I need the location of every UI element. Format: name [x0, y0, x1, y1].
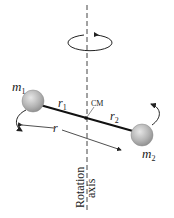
rotation-arrow-icon	[68, 32, 112, 51]
cm-label: CM	[91, 99, 103, 108]
rotation-axis-label: Rotation axis	[73, 167, 98, 208]
mass-1-label: m1	[12, 79, 25, 96]
cm-leader-line	[87, 107, 94, 117]
distance-r-label: r	[53, 121, 58, 135]
mass-1-motion-arrow-icon	[16, 110, 26, 131]
mass-2-label: m2	[142, 146, 155, 163]
distance-r-arrow	[22, 125, 121, 150]
mass-2-motion-arrow-icon	[151, 104, 159, 125]
mass-2-sphere	[131, 124, 153, 146]
rotating-dumbbell-diagram: m1 m2 r1 r2 r CM Rotation axis	[0, 0, 174, 218]
radius-2-label: r2	[110, 109, 119, 125]
svg-text:axis: axis	[84, 178, 98, 198]
radius-1-label: r1	[58, 96, 67, 112]
